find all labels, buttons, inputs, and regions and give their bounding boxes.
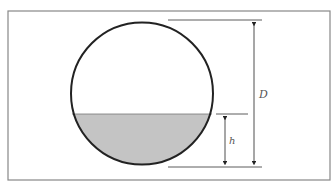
depth-label: h	[229, 135, 235, 146]
diagram-container: D h	[0, 0, 336, 184]
diameter-label: D	[258, 88, 268, 101]
